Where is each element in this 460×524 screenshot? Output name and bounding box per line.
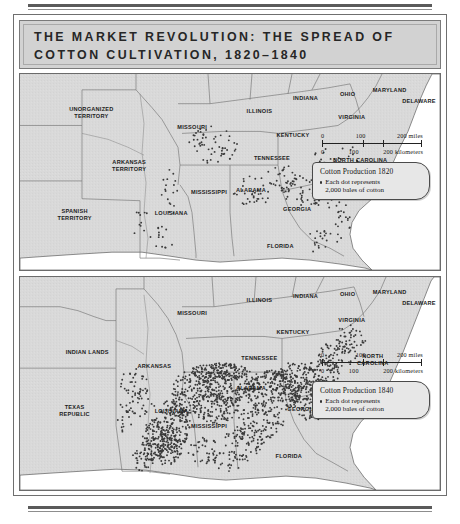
legend-line-2: 2,000 bales of cotton: [325, 186, 384, 194]
scale-miles-row: 0 100 200 miles: [320, 132, 424, 139]
scale-tick-2: [383, 359, 384, 366]
title-line-2: COTTON CULTIVATION, 1820–1840: [34, 46, 440, 64]
scale-bar-1840: 0 100 200 miles 0 100 200 kilometers: [320, 351, 424, 374]
cotton-cultivation-figure: THE MARKET REVOLUTION: THE SPREAD OF COT…: [0, 0, 460, 524]
legend-title: Cotton Production 1840: [320, 386, 423, 395]
scale-tick-3: [421, 140, 422, 147]
dot-symbol-icon: [320, 181, 322, 183]
scale-ruler: [320, 140, 424, 147]
legend-line-1: Each dot represents: [325, 397, 380, 405]
bottom-rule: [28, 506, 432, 512]
legend-line-1: Each dot represents: [325, 178, 380, 186]
scale-km-200: 200 kilometers: [383, 367, 423, 374]
legend-line-2: 2,000 bales of cotton: [325, 405, 384, 413]
rule-thick: [28, 4, 432, 7]
top-rule: [28, 4, 432, 10]
legend-title: Cotton Production 1820: [320, 167, 423, 176]
map-panel-1840: MISSOURIILLINOISINDIANAOHIOMARYLANDDELAW…: [19, 276, 441, 491]
scale-km-row: 0 100 200 kilometers: [320, 148, 424, 155]
map-plate: THE MARKET REVOLUTION: THE SPREAD OF COT…: [13, 14, 447, 496]
scale-tick-2: [383, 140, 384, 147]
scale-ruler-bar: [322, 362, 422, 363]
scale-miles-200: 200 miles: [397, 132, 423, 139]
map-panel-1820: UNORGANIZED TERRITORYMISSOURIILLINOISIND…: [19, 73, 441, 271]
scale-tick-0: [322, 359, 323, 366]
scale-miles-200: 200 miles: [397, 351, 423, 358]
scale-ruler-bar: [322, 143, 422, 144]
rule-thick: [28, 506, 432, 509]
scale-miles-0: 0: [321, 351, 324, 358]
legend-description: Each dot represents 2,000 bales of cotto…: [325, 397, 384, 414]
scale-bar-1820: 0 100 200 miles 0 100 200 kilometers: [320, 132, 424, 155]
rule-thin: [28, 9, 432, 10]
title-banner: THE MARKET REVOLUTION: THE SPREAD OF COT…: [19, 20, 441, 69]
legend-1840: Cotton Production 1840 Each dot represen…: [312, 381, 430, 419]
scale-miles-100: 100: [356, 132, 366, 139]
legend-1820: Cotton Production 1820 Each dot represen…: [312, 162, 430, 200]
scale-miles-100: 100: [356, 351, 366, 358]
scale-km-200: 200 kilometers: [383, 148, 423, 155]
scale-km-row: 0 100 200 kilometers: [320, 367, 424, 374]
title-line-1: THE MARKET REVOLUTION: THE SPREAD OF: [34, 28, 440, 46]
scale-miles-0: 0: [321, 132, 324, 139]
scale-tick-1: [363, 359, 364, 366]
scale-km-100: 100: [349, 367, 359, 374]
scale-km-0: 0: [321, 148, 324, 155]
legend-description: Each dot represents 2,000 bales of cotto…: [325, 178, 384, 195]
scale-tick-1: [363, 140, 364, 147]
scale-tick-0: [322, 140, 323, 147]
scale-km-0: 0: [321, 367, 324, 374]
scale-tick-3: [421, 359, 422, 366]
rule-thin: [28, 511, 432, 512]
legend-item: Each dot represents 2,000 bales of cotto…: [320, 397, 423, 414]
scale-miles-row: 0 100 200 miles: [320, 351, 424, 358]
scale-km-100: 100: [349, 148, 359, 155]
legend-item: Each dot represents 2,000 bales of cotto…: [320, 178, 423, 195]
scale-ruler: [320, 359, 424, 366]
dot-symbol-icon: [320, 400, 322, 402]
